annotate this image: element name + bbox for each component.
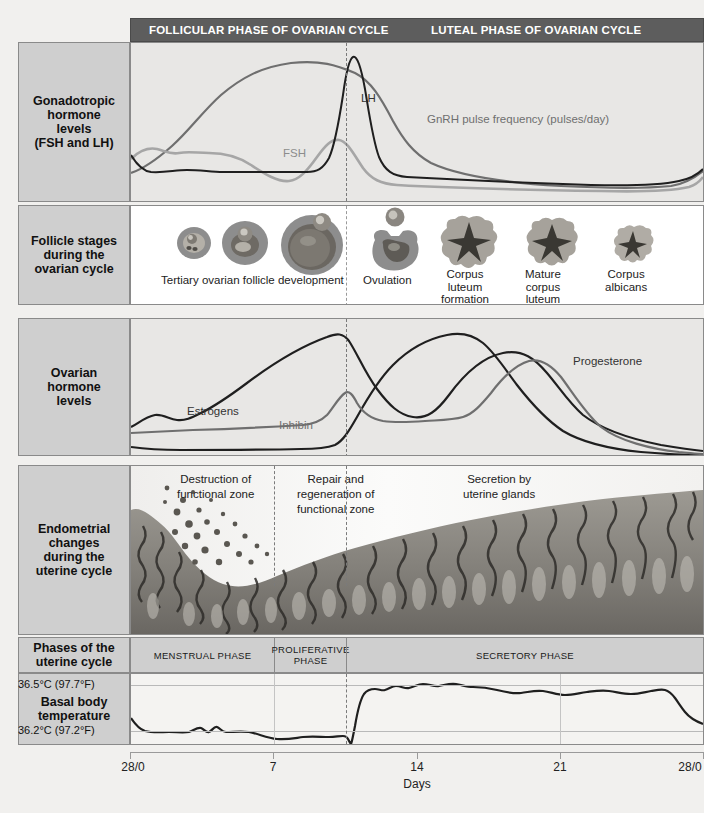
bbt-vgrid-day7 [274,674,275,744]
ovarian-hormone-curves [131,319,703,455]
ovarian-hormone-chart: Estrogens Inhibin Progesterone [130,318,704,456]
x-tick-14 [417,752,418,759]
row-label-endometrial: Endometrial changes during the uterine c… [18,465,130,635]
ovulation-dashed-line-ovarian [346,319,347,456]
follicle-image-tertiary [277,208,347,282]
ovulation-dashed-line-follicle [346,206,347,305]
row-label-follicle-stages-text: Follicle stages during the ovarian cycle [31,234,117,276]
follicle-image-corpus-luteum-formation [437,214,501,276]
ovulation-dashed-line-gonadotropic [346,43,347,201]
curve-label-lh: LH [361,92,376,104]
x-label-21: 21 [553,760,566,774]
phase-menstrual: MENSTRUAL PHASE [131,638,274,672]
curve-label-fsh: FSH [283,147,306,159]
bbt-chart [130,673,704,745]
row-label-ovarian-hormones: Ovarian hormone levels [18,318,130,456]
x-label-14: 14 [410,760,423,774]
follicle-caption-tertiary: Tertiary ovarian follicle development [161,274,344,287]
endometrial-caption-destruction: Destruction of functional zone [177,472,254,502]
follicle-caption-corpus-luteum-formation: Corpus luteum formation [441,268,489,305]
bbt-gridline-lower [131,731,703,732]
endometrial-caption-repair: Repair and regeneration of functional zo… [297,472,374,517]
x-tick-0 [130,752,131,759]
curve-label-estrogens: Estrogens [187,405,239,417]
x-axis-title: Days [403,777,430,791]
follicle-image-ovulation [367,206,423,282]
menstrual-cycle-figure: FOLLICULAR PHASE OF OVARIAN CYCLE LUTEAL… [0,0,704,813]
follicle-image-primary [175,224,213,266]
follicle-image-corpus-albicans [611,224,655,270]
row-label-bbt-text: Basal body temperature [38,695,110,723]
x-label-28: 28/0 [678,760,701,774]
row-label-endometrial-text: Endometrial changes during the uterine c… [36,522,112,578]
bbt-gridline-upper [131,685,703,686]
row-label-follicle-stages: Follicle stages during the ovarian cycle [18,205,130,305]
endometrium-panel: Destruction of functional zone Repair an… [130,465,704,635]
follicle-caption-mature-corpus-luteum: Mature corpus luteum [525,268,561,305]
x-label-7: 7 [270,760,277,774]
phase-secretory: SECRETORY PHASE [346,638,703,672]
bbt-vgrid-day21 [560,674,561,744]
follicle-caption-ovulation: Ovulation [363,274,412,287]
ovarian-phase-header: FOLLICULAR PHASE OF OVARIAN CYCLE LUTEAL… [130,18,704,42]
endometrial-caption-secretion: Secretion by uterine glands [463,472,535,502]
row-label-ovarian-hormones-text: Ovarian hormone levels [47,366,100,408]
row-label-gonadotropic: Gonadotropic hormone levels (FSH and LH) [18,42,130,202]
ovulation-dashed-line-bbt [346,674,347,744]
curve-label-progesterone: Progesterone [573,355,642,367]
row-label-uterine-phases-text: Phases of the uterine cycle [33,641,114,669]
uterine-phases-row: MENSTRUAL PHASE PROLIFERATIVE PHASE SECR… [130,637,704,673]
ovulation-dashed-line-endometrial [346,466,347,586]
phase-proliferative: PROLIFERATIVE PHASE [274,638,346,672]
bbt-ytick-lower: 36.2°C (97.2°F) [18,724,130,736]
row-label-gonadotropic-text: Gonadotropic hormone levels (FSH and LH) [33,94,115,150]
follicle-stages-panel: Tertiary ovarian follicle development Ov… [130,205,704,305]
gonadotropic-curves [131,43,703,201]
curve-label-inhibin: Inhibin [279,419,313,431]
row-label-uterine-phases: Phases of the uterine cycle [18,637,130,673]
header-luteal-phase: LUTEAL PHASE OF OVARIAN CYCLE [431,24,641,36]
x-tick-7 [273,752,274,759]
bbt-ytick-upper: 36.5°C (97.7°F) [18,678,130,690]
x-tick-21 [560,752,561,759]
follicle-image-mature-corpus-luteum [523,216,581,274]
x-label-0: 28/0 [121,760,144,774]
header-follicular-phase: FOLLICULAR PHASE OF OVARIAN CYCLE [149,24,389,36]
follicle-image-secondary [219,216,271,272]
menstrual-proliferative-divider [274,466,275,586]
gonadotropic-chart: 50 40 30 20 10 LH FSH GnRH pulse frequen… [130,42,704,202]
follicle-caption-corpus-albicans: Corpus albicans [605,268,647,293]
curve-label-gnrh: GnRH pulse frequency (pulses/day) [427,113,609,125]
